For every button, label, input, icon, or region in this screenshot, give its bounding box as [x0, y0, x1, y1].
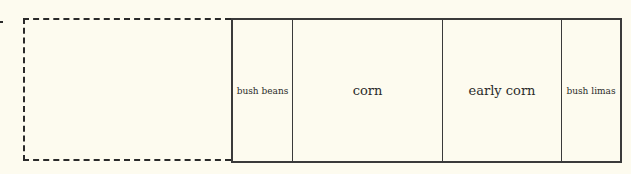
bed-bush-limas: bush limas: [561, 20, 620, 161]
bed-label: bush beans: [237, 86, 289, 96]
bed-label: corn: [353, 83, 383, 98]
bed-label: bush limas: [566, 86, 615, 96]
unplanted-area: [23, 18, 231, 161]
bed-corn: corn: [292, 20, 442, 161]
garden-plot: bush beans corn early corn bush limas: [231, 18, 622, 163]
bed-label: early corn: [469, 83, 536, 98]
bed-early-corn: early corn: [442, 20, 561, 161]
edge-tick-mark: [0, 21, 3, 23]
bed-bush-beans: bush beans: [233, 20, 292, 161]
